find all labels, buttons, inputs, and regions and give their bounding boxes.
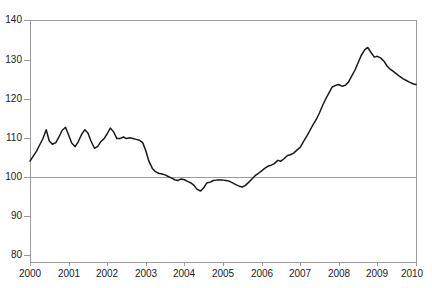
chart-container: 140 130 120 110 100 90 80 2000 2001 2002… [0,0,432,288]
series-line-index [30,47,416,191]
series-layer [0,0,432,288]
